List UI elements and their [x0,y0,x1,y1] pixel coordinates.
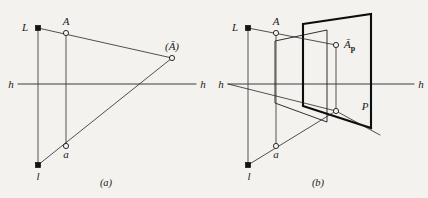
panel-a-label-horizon-right: h [200,78,206,90]
panel-a-label-horizon-left: h [8,78,14,90]
panel-b-ray-horizon-to-foot [228,84,336,111]
panel-a-group: L A (Ā) h h a l (a) [8,15,206,189]
panel-b-point-Abarp-marker [333,42,338,47]
panel-b-ray-foot-extension [336,111,380,135]
panel-b-ray-l-to-foot [248,111,336,165]
panel-b-caption: (b) [312,177,325,189]
panel-b-label-L: L [231,21,238,33]
panel-b-label-l: l [247,170,250,182]
panel-a-point-l-marker [35,162,40,167]
panel-b-point-foot-marker [333,108,338,113]
panel-a-caption: (a) [100,177,113,189]
panel-b-label-Abarp-group: Āp [343,38,356,53]
panel-a-ray-L-to-Abar [38,28,172,58]
panel-b-point-A-marker [273,30,278,35]
panel-a-label-Abar: (Ā) [165,40,179,53]
figure-container: L A (Ā) h h a l (a) [0,0,428,198]
panel-b-label-A: A [272,15,280,27]
panel-a-ray-l-to-Abar [38,58,172,165]
panel-a-label-L: L [21,21,28,33]
panel-b-label-horizon-left: h [218,78,224,90]
panel-b-label-a: a [273,148,279,160]
figure-canvas: L A (Ā) h h a l (a) [0,0,428,198]
panel-a-point-L-marker [35,25,40,30]
panel-b-point-l-marker [245,162,250,167]
panel-b-point-L-marker [245,25,250,30]
panel-b-label-horizon-right: h [418,78,424,90]
panel-a-point-A-marker [63,30,68,35]
panel-b-label-Abarp-subscript: p [351,44,356,53]
panel-b-back-plane [275,30,327,122]
panel-a-label-a: a [63,148,69,160]
panel-a-label-A: A [62,15,70,27]
panel-b-group: L A Āp P h h a l (b) [218,14,424,189]
panel-a-point-Abar-marker [169,55,174,60]
panel-a-label-l: l [36,170,39,182]
panel-b-label-plane-P: P [361,100,369,112]
